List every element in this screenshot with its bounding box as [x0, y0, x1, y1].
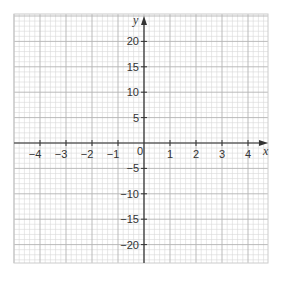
x-tick-label: −1	[107, 148, 120, 160]
x-tick-label: −4	[29, 148, 42, 160]
x-tick-label: 4	[245, 148, 251, 160]
y-tick-label: 10	[127, 86, 139, 98]
x-tick-label: 2	[193, 148, 199, 160]
x-tick-label: −2	[81, 148, 94, 160]
y-tick-label: −15	[120, 213, 139, 225]
x-tick-label: 1	[167, 148, 173, 160]
x-axis-label: x	[262, 144, 269, 158]
minor-grid-lines	[14, 14, 268, 263]
x-tick-label: 3	[219, 148, 225, 160]
y-tick-label: −20	[120, 239, 139, 251]
y-tick-label: −5	[126, 162, 139, 174]
x-tick-label: −3	[55, 148, 68, 160]
y-tick-label: 20	[127, 35, 139, 47]
coordinate-grid: −4−3−2−11234 2015105−5−10−15−20 x y 0	[0, 0, 282, 286]
y-tick-label: −10	[120, 188, 139, 200]
origin-label: 0	[137, 145, 143, 157]
y-axis-label: y	[132, 13, 139, 27]
y-tick-label: 15	[127, 61, 139, 73]
y-axis-arrow-icon	[141, 16, 147, 25]
y-tick-label: 5	[133, 112, 139, 124]
